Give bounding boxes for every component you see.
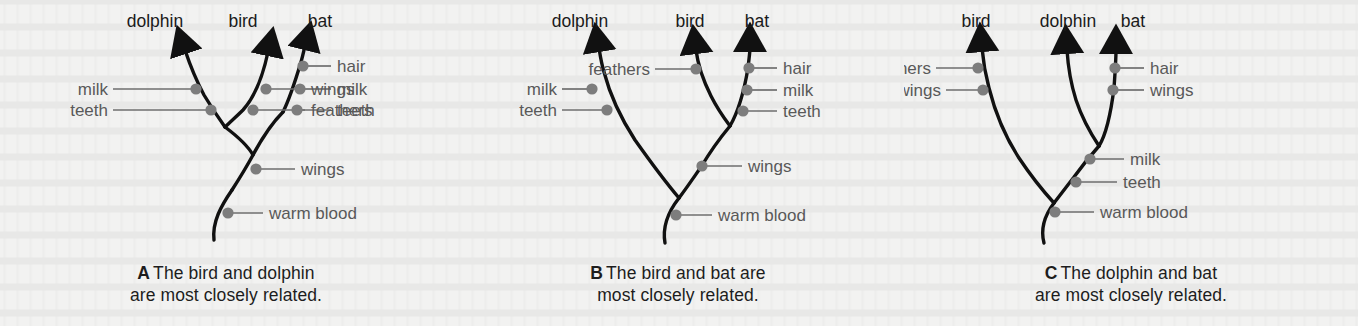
node-feathers-bird (972, 62, 983, 73)
panel-b: dolphin bird bat milk teeth feathers hai… (452, 0, 904, 326)
trait-label-warm-blood: warm blood (268, 204, 357, 223)
trait-label-wings-stem: wings (747, 157, 791, 176)
taxon-label-dolphin: dolphin (1040, 11, 1096, 31)
panel-a-tree: dolphin bird bat milk teeth wings feathe… (0, 0, 452, 262)
node-feathers-bird (247, 104, 258, 115)
node-milk-dolphin (190, 83, 201, 94)
panel-a-caption: AThe bird and dolphin are most closely r… (0, 262, 452, 306)
node-wings-stem (250, 163, 261, 174)
trait-label-feathers-bird: feathers (589, 60, 650, 79)
panel-c-caption: CThe dolphin and bat are most closely re… (904, 262, 1358, 306)
node-wings-stem (696, 160, 707, 171)
panel-a-caption-line2: are most closely related. (0, 284, 452, 306)
node-teeth-bat (737, 105, 748, 116)
node-warm-blood (1049, 206, 1060, 217)
node-teeth-bat (291, 104, 302, 115)
taxon-label-bat: bat (308, 11, 332, 31)
node-teeth-stem (1070, 176, 1081, 187)
panel-c: bird dolphin bat feathers wings hair win… (904, 0, 1358, 326)
panel-b-tree: dolphin bird bat milk teeth feathers hai… (452, 0, 904, 262)
node-milk-bat (294, 83, 305, 94)
taxon-label-bird: bird (675, 11, 704, 31)
node-wings-bird (977, 84, 988, 95)
trait-label-hair-bat: hair (337, 57, 366, 76)
trait-label-wings-stem: wings (300, 160, 344, 179)
node-teeth-dolphin (205, 104, 216, 115)
node-warm-blood (670, 209, 681, 220)
taxon-label-dolphin: dolphin (552, 11, 608, 31)
taxon-label-dolphin: dolphin (127, 11, 183, 31)
trait-label-hair-bat: hair (783, 59, 812, 78)
trait-label-teeth-dolphin: teeth (519, 101, 557, 120)
trait-label-warm-blood: warm blood (717, 206, 806, 225)
panel-b-caption-line2: most closely related. (452, 284, 904, 306)
node-teeth-dolphin (601, 104, 612, 115)
panel-b-caption-line1: The bird and bat are (606, 263, 766, 283)
trait-label-milk-stem: milk (1130, 150, 1161, 169)
trait-label-teeth-stem: teeth (1123, 173, 1161, 192)
taxon-label-bat: bat (745, 11, 769, 31)
panel-c-tree: bird dolphin bat feathers wings hair win… (904, 0, 1358, 262)
branch-bird (696, 50, 730, 126)
trait-label-wings-bat: wings (1149, 81, 1193, 100)
branch-bat-stem (232, 112, 283, 190)
node-wings-bird (260, 83, 271, 94)
node-feathers-bird (690, 63, 701, 74)
panel-b-letter: B (590, 263, 603, 283)
taxon-label-bat: bat (1121, 11, 1145, 31)
trait-label-milk-bat: milk (783, 81, 814, 100)
panel-a-caption-line1: The bird and dolphin (153, 263, 315, 283)
branch-dolphin (1067, 50, 1099, 146)
panel-a-letter: A (137, 263, 150, 283)
branch-bird (982, 48, 1054, 203)
node-milk-dolphin (586, 83, 597, 94)
node-hair-bat (743, 62, 754, 73)
panel-c-caption-line2: are most closely related. (904, 284, 1358, 306)
trait-label-warm-blood: warm blood (1099, 203, 1188, 222)
node-hair-bat (297, 60, 308, 71)
taxon-label-bird: bird (961, 11, 990, 31)
node-milk-stem (1084, 153, 1095, 164)
trait-label-milk-dolphin: milk (78, 80, 109, 99)
trait-label-teeth-bat: teeth (783, 102, 821, 121)
branch-dolphin-bird-stem (225, 127, 253, 155)
node-milk-bat (741, 84, 752, 95)
trait-label-milk-bat: milk (337, 80, 368, 99)
node-warm-blood (222, 207, 233, 218)
taxon-label-bird: bird (228, 11, 257, 31)
branch-bat (283, 46, 305, 112)
node-wings-bat (1107, 84, 1118, 95)
trait-label-milk-dolphin: milk (527, 80, 558, 99)
panel-c-letter: C (1045, 263, 1058, 283)
trait-label-teeth-dolphin: teeth (70, 101, 108, 120)
panel-b-caption: BThe bird and bat are most closely relat… (452, 262, 904, 306)
node-hair-bat (1109, 62, 1120, 73)
trait-label-wings-bird: wings (904, 81, 941, 100)
trait-label-teeth-bat: teeth (337, 101, 375, 120)
panel-c-caption-line1: The dolphin and bat (1061, 263, 1218, 283)
trait-label-hair-bat: hair (1150, 59, 1179, 78)
trait-label-feathers-bird: feathers (904, 59, 931, 78)
panel-a: dolphin bird bat milk teeth wings feathe… (0, 0, 452, 326)
figure-root: dolphin bird bat milk teeth wings feathe… (0, 0, 1358, 326)
